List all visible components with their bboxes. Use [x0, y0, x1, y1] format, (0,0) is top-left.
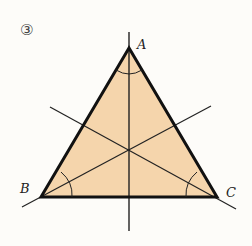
vertex-label-c: C [226, 185, 236, 200]
vertex-label-b: B [19, 181, 30, 196]
triangle-diagram: ③ A B C [0, 0, 252, 246]
figure-number: ③ [20, 21, 33, 39]
vertex-label-a: A [136, 37, 146, 52]
